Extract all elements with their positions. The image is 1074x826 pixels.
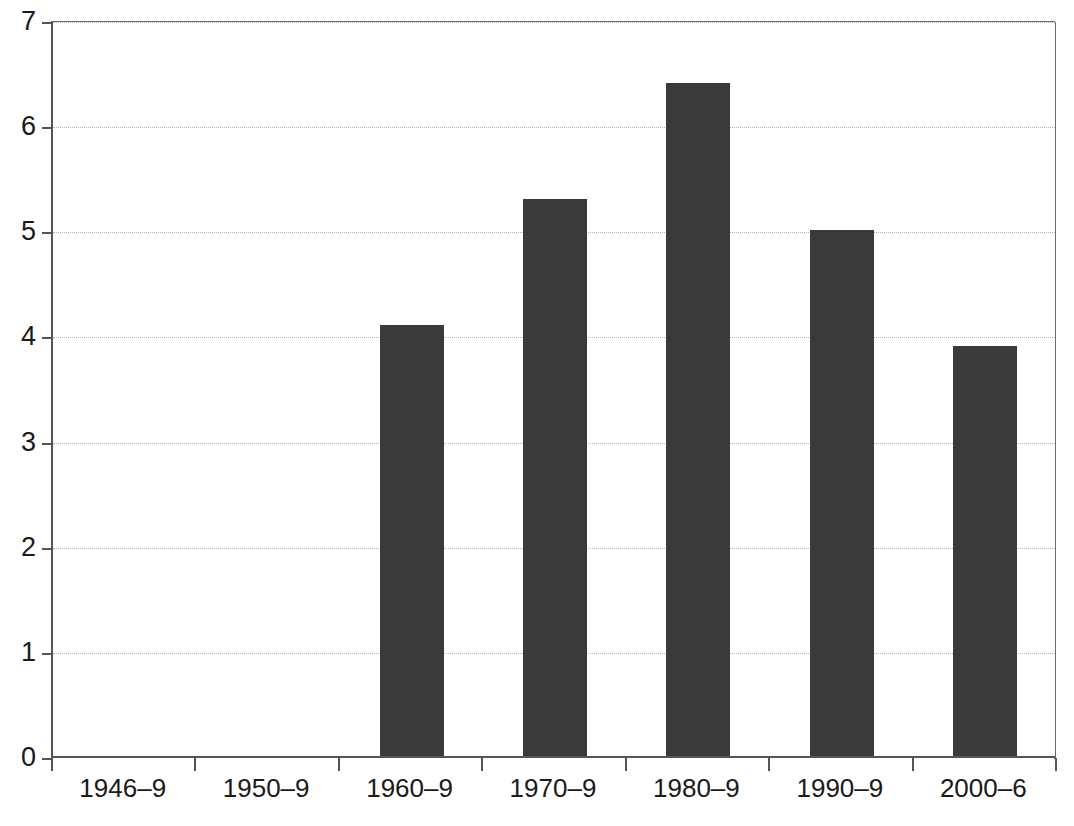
x-axis-tick-label: 1950–9: [194, 775, 337, 801]
y-axis-tick-label: 6: [0, 113, 36, 140]
gridline: [53, 22, 1055, 23]
x-axis-tick: [1055, 758, 1057, 771]
y-axis-tick-label: 2: [0, 534, 36, 561]
x-axis-tick-label: 1960–9: [338, 775, 481, 801]
gridline: [53, 127, 1055, 128]
x-axis-tick: [51, 758, 53, 771]
x-axis-tick-label: 1946–9: [51, 775, 194, 801]
y-axis-tick-label: 4: [0, 323, 36, 350]
bar-chart: 01234567 1946–91950–91960–91970–91980–91…: [0, 0, 1074, 826]
x-axis-tick: [194, 758, 196, 771]
x-axis-tick: [338, 758, 340, 771]
y-axis-tick-label: 7: [0, 8, 36, 35]
y-axis-tick-label: 0: [0, 744, 36, 771]
x-axis-tick: [768, 758, 770, 771]
bar: [380, 325, 444, 756]
y-axis-tick-label: 1: [0, 639, 36, 666]
bar: [953, 346, 1017, 756]
plot-area: [51, 22, 1055, 758]
x-axis-tick-label: 1970–9: [481, 775, 624, 801]
x-axis-tick: [625, 758, 627, 771]
y-axis-tick: [42, 443, 53, 445]
x-axis-tick: [912, 758, 914, 771]
y-axis-tick: [42, 127, 53, 129]
y-axis-tick-label: 5: [0, 218, 36, 245]
y-axis-tick: [42, 22, 53, 24]
bar: [810, 230, 874, 756]
x-axis-tick: [481, 758, 483, 771]
x-axis-tick-label: 1990–9: [768, 775, 911, 801]
x-axis-tick-label: 2000–6: [912, 775, 1055, 801]
y-axis-tick: [42, 653, 53, 655]
y-axis-tick: [42, 232, 53, 234]
y-axis-tick-label: 3: [0, 429, 36, 456]
y-axis-tick: [42, 337, 53, 339]
y-axis-tick: [42, 548, 53, 550]
bar: [666, 83, 730, 756]
x-axis-tick-label: 1980–9: [625, 775, 768, 801]
bar: [523, 199, 587, 756]
